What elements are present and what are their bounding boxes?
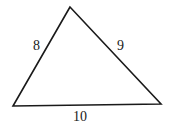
side-label-left: 8 [33, 38, 40, 53]
side-label-base: 10 [73, 109, 87, 124]
triangle-shape [13, 7, 161, 106]
side-label-right: 9 [117, 38, 124, 53]
triangle-diagram: 8 9 10 [0, 0, 191, 132]
